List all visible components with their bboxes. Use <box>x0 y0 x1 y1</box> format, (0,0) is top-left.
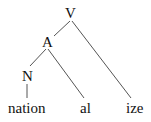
leaf-al: al <box>80 101 91 116</box>
node-n: N <box>22 69 33 84</box>
edge-a-n <box>30 49 46 66</box>
node-v: V <box>65 6 76 21</box>
node-a: A <box>42 35 53 50</box>
leaf-nation: nation <box>8 101 46 116</box>
edge-a-al <box>48 49 84 98</box>
leaf-ize: ize <box>126 101 143 116</box>
edge-v-ize <box>72 21 131 98</box>
edge-v-a <box>54 21 70 36</box>
morphology-tree-diagram: V A N nation al ize <box>0 0 151 122</box>
